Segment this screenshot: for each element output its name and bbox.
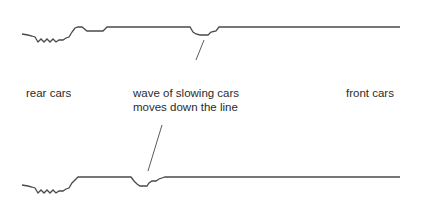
bottom-dip-pointer xyxy=(148,125,162,171)
wave-label-line2: moves down the line xyxy=(133,100,239,114)
bottom-car-line xyxy=(22,177,400,193)
front-cars-label: front cars xyxy=(346,86,394,100)
wave-label: wave of slowing cars moves down the line xyxy=(133,86,239,114)
traffic-wave-diagram: rear cars wave of slowing cars moves dow… xyxy=(0,0,422,211)
rear-cars-label: rear cars xyxy=(26,86,71,100)
top-car-line xyxy=(22,27,400,42)
wave-label-line1: wave of slowing cars xyxy=(133,86,239,100)
top-dip-pointer xyxy=(196,40,204,60)
